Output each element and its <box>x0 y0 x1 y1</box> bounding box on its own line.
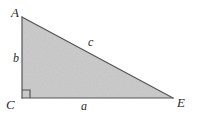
side-label-b: b <box>13 52 19 64</box>
side-label-a: a <box>81 100 87 112</box>
vertex-label-a: A <box>11 6 19 19</box>
vertex-label-c: C <box>6 98 15 111</box>
side-label-c: c <box>88 36 93 48</box>
triangle-graphic <box>0 0 199 120</box>
vertex-label-e: E <box>177 96 185 109</box>
right-triangle-figure: A C E b c a <box>0 0 199 120</box>
